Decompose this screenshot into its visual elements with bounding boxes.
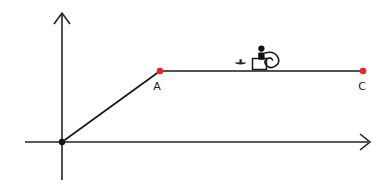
desk-icon (253, 59, 267, 70)
point-c-label: C (358, 80, 366, 93)
geometry-figure: A C (0, 0, 390, 193)
y-axis (54, 13, 70, 180)
person-at-desk-icon (235, 46, 278, 70)
point-a-label: A (153, 80, 161, 93)
segment-origin-to-a (62, 71, 160, 142)
small-object-icon (235, 59, 245, 64)
x-axis (25, 134, 370, 150)
person-body-icon (258, 52, 264, 59)
person-head-icon (258, 46, 264, 52)
point-a-marker (157, 68, 164, 75)
point-c-marker (360, 68, 367, 75)
graph-path (62, 71, 364, 142)
point-a-group: A (153, 68, 163, 93)
figure-canvas: A C (0, 0, 390, 193)
